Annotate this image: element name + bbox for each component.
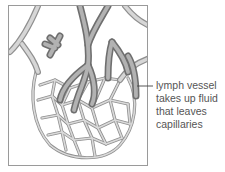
lymph-vessel-label: lymph vessel takes up fluid that leaves … bbox=[156, 79, 218, 131]
label-line-1: lymph vessel bbox=[156, 79, 218, 92]
label-line-3: that leaves bbox=[156, 105, 218, 118]
label-line-4: capillaries bbox=[156, 118, 218, 131]
label-line-2: takes up fluid bbox=[156, 92, 218, 105]
